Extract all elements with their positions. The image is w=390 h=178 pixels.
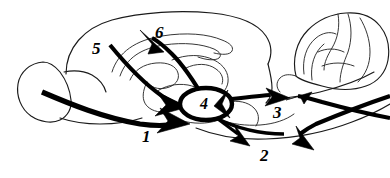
cerebellar-folia-7 [322, 63, 354, 66]
cerebellar-folia-3 [324, 14, 339, 70]
pathway-label-3: 3 [273, 104, 282, 121]
olfactory-peduncle-outline [64, 71, 106, 92]
brain-pathway-diagram: 1 2 3 4 5 6 [0, 0, 390, 178]
pathway-label-1: 1 [142, 128, 151, 145]
cerebellar-folia-1 [304, 33, 337, 74]
cerebellar-folia-5 [358, 18, 370, 82]
pathway-label-4: 4 [200, 96, 208, 112]
cerebellar-folia-4 [340, 14, 351, 82]
brain-diagram-svg [0, 0, 390, 178]
pathway-label-5: 5 [92, 40, 101, 57]
pathway-label-2: 2 [260, 147, 269, 164]
pathway-1-line [42, 92, 174, 126]
cerebellar-folia-2 [312, 44, 325, 80]
cerebellar-peduncle-outline [277, 75, 296, 92]
pathway-2-group [214, 96, 390, 150]
pathway-label-6: 6 [155, 24, 164, 41]
